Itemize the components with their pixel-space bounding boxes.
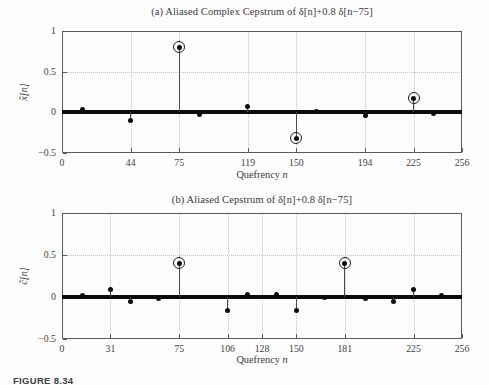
y-tick-label: −0.5 xyxy=(22,333,56,344)
stem-dot xyxy=(197,112,202,117)
y-axis-label: c̃[n] xyxy=(18,267,29,285)
y-axis-label: x̃[n] xyxy=(18,83,29,101)
x-tick-label: 225 xyxy=(398,157,430,168)
x-tick-label: 194 xyxy=(349,157,381,168)
x-tick-label: 256 xyxy=(446,343,478,354)
stem-dot xyxy=(294,308,299,313)
x-tick-label: 106 xyxy=(212,343,244,354)
y-tick-label: 1 xyxy=(22,25,56,36)
x-tick-label: 128 xyxy=(246,343,278,354)
y-tick-label: 1 xyxy=(22,207,56,218)
y-tick-label: −0.5 xyxy=(22,147,56,158)
y-tick-mark xyxy=(63,339,67,340)
plot-title-b: (b) Aliased Cepstrum of δ[n]+0.8 δ[n−75] xyxy=(62,194,462,205)
stem-dot xyxy=(274,292,279,297)
zero-line xyxy=(62,110,462,114)
x-tick-label: 75 xyxy=(163,157,195,168)
y-tick-label: 0 xyxy=(22,291,56,302)
x-axis-label: Quefrency n xyxy=(62,354,462,365)
x-tick-label: 119 xyxy=(232,157,264,168)
stem-dot xyxy=(391,299,396,304)
x-tick-label: 44 xyxy=(115,157,147,168)
y-tick-mark xyxy=(63,153,67,154)
plot-title-a: (a) Aliased Complex Cepstrum of δ[n]+0.8… xyxy=(62,6,462,17)
x-tick-label: 150 xyxy=(280,157,312,168)
stem-line xyxy=(179,47,180,112)
zero-line xyxy=(62,295,462,299)
x-tick-label: 0 xyxy=(46,157,78,168)
x-tick-label: 256 xyxy=(446,157,478,168)
x-tick-mark xyxy=(462,334,463,338)
y-tick-label: 0 xyxy=(22,106,56,117)
x-tick-label: 181 xyxy=(329,343,361,354)
figure-8-34-cepstrum-plots: FIGURE 8.34 (a) Aliased Complex Cepstrum… xyxy=(0,0,489,385)
axes-frame xyxy=(62,31,462,153)
x-tick-mark xyxy=(462,148,463,152)
stem-dot xyxy=(314,109,319,114)
x-tick-label: 225 xyxy=(398,343,430,354)
y-tick-label: 0.5 xyxy=(22,249,56,260)
axes-frame xyxy=(62,213,462,339)
x-tick-label: 150 xyxy=(280,343,312,354)
highlight-circle-marker xyxy=(408,92,420,104)
figure-caption: FIGURE 8.34 xyxy=(13,375,73,385)
x-tick-label: 31 xyxy=(94,343,126,354)
x-tick-label: 75 xyxy=(163,343,195,354)
y-tick-label: 0.5 xyxy=(22,66,56,77)
x-axis-label: Quefrency n xyxy=(62,169,462,180)
x-tick-label: 0 xyxy=(46,343,78,354)
